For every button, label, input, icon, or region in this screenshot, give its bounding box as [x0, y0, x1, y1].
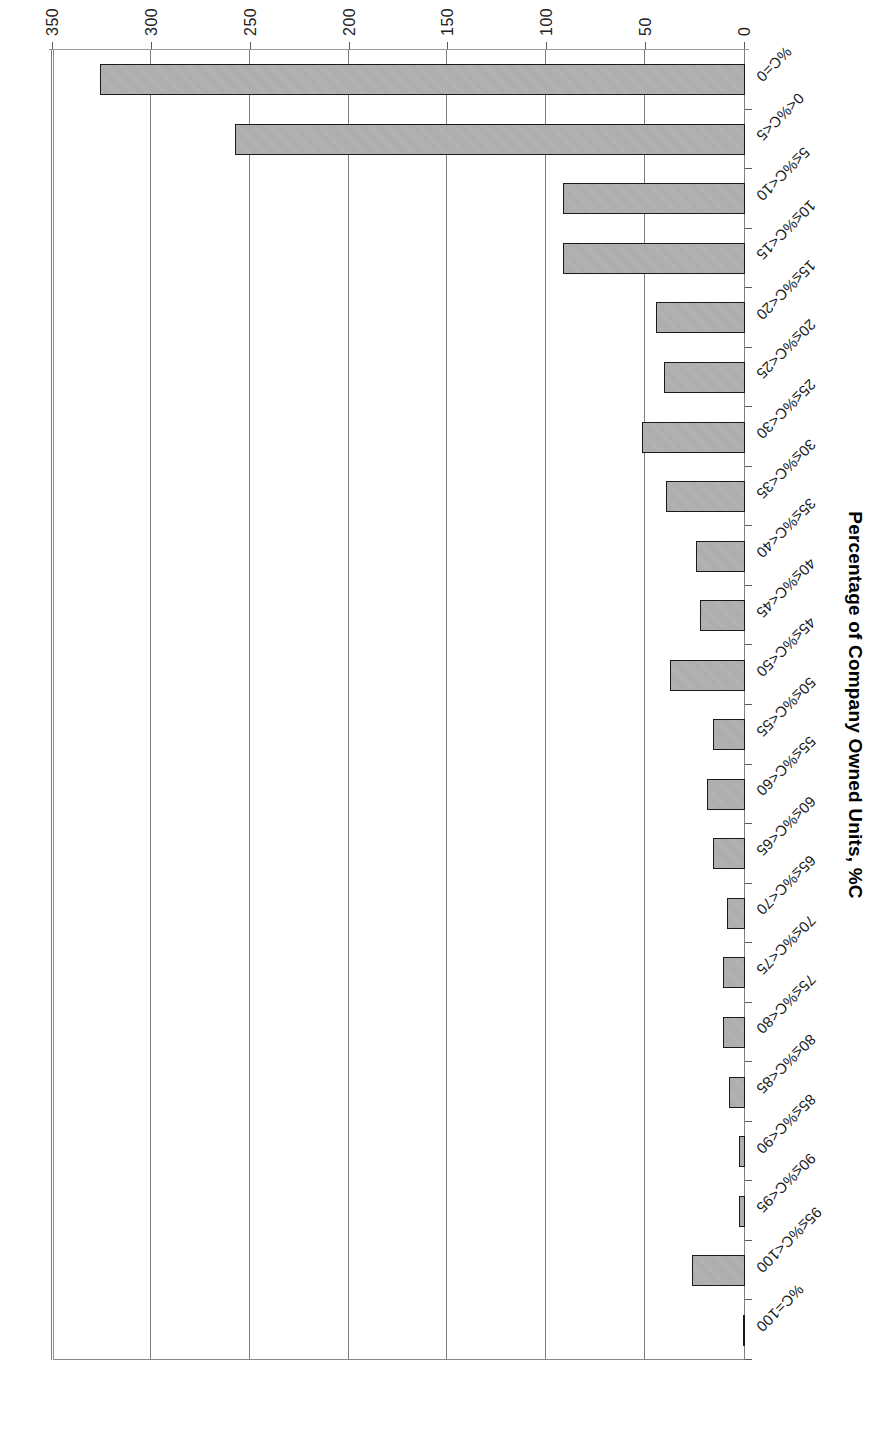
category-label: 70≤%C<75: [753, 912, 819, 978]
value-axis-tick-label: 350: [44, 8, 62, 36]
bar: [664, 362, 745, 393]
category-label: 35≤%C<40: [753, 495, 819, 561]
value-axis-tick-label: 0: [736, 27, 754, 36]
bar-fill: [656, 302, 745, 333]
bar: [100, 64, 745, 95]
bar-fill: [707, 779, 745, 810]
bar-fill: [743, 1315, 745, 1346]
bar: [666, 481, 745, 512]
bar: [700, 600, 745, 631]
bar: [563, 183, 745, 214]
bar: [642, 422, 745, 453]
bar: [727, 898, 745, 929]
value-axis-tick-label: 200: [341, 8, 359, 36]
category-axis-tick: [745, 1061, 752, 1062]
category-label: 40≤%C<45: [753, 555, 819, 621]
bar-fill: [664, 362, 745, 393]
value-axis-tick-label: 250: [242, 8, 260, 36]
category-axis-tick: [745, 228, 752, 229]
bar-fill: [739, 1136, 745, 1167]
bar-fill: [713, 838, 745, 869]
bar-fill: [713, 719, 745, 750]
gridline: [249, 50, 250, 1360]
bar-fill: [563, 243, 745, 274]
category-axis-tick: [745, 942, 752, 943]
category-axis-tick: [745, 1180, 752, 1181]
category-axis-tick: [745, 883, 752, 884]
gridline: [51, 50, 52, 1360]
bar: [563, 243, 745, 274]
gridline: [446, 50, 447, 1360]
value-axis-tick-label: 150: [439, 8, 457, 36]
category-axis-tick: [745, 823, 752, 824]
bar: [743, 1315, 745, 1346]
bar-fill: [670, 660, 745, 691]
category-label: 20≤%C<25: [753, 317, 819, 383]
gridline: [348, 50, 349, 1360]
category-label: 5≤%C<10: [753, 144, 813, 204]
category-label: 60≤%C<65: [753, 793, 819, 859]
value-axis-line: [49, 49, 749, 50]
bar: [656, 302, 745, 333]
category-axis-tick: [745, 1121, 752, 1122]
category-axis-tick: [745, 644, 752, 645]
category-label: 45≤%C<50: [753, 614, 819, 680]
category-axis-tick: [745, 704, 752, 705]
category-axis-tick: [745, 406, 752, 407]
category-label: 30≤%C<35: [753, 436, 819, 502]
value-axis-tick-label: 300: [143, 8, 161, 36]
category-label: 55≤%C<60: [753, 733, 819, 799]
category-label: 80≤%C<85: [753, 1031, 819, 1097]
bar-fill: [739, 1196, 745, 1227]
bar-fill: [666, 481, 745, 512]
category-axis-tick: [745, 347, 752, 348]
gridline: [150, 50, 151, 1360]
category-axis-tick: [745, 1359, 752, 1360]
bar: [729, 1077, 745, 1108]
category-axis-tick: [745, 466, 752, 467]
category-label: 10≤%C<15: [753, 198, 819, 264]
value-axis-tick-label: 50: [637, 17, 655, 36]
category-axis-tick: [745, 109, 752, 110]
category-label: 75≤%C<80: [753, 972, 819, 1038]
bar: [692, 1255, 745, 1286]
bar-fill: [563, 183, 745, 214]
bar: [696, 541, 745, 572]
category-label: 15≤%C<20: [753, 257, 819, 323]
gridline: [545, 50, 546, 1360]
bar: [707, 779, 745, 810]
category-axis-tick: [745, 764, 752, 765]
category-label: 0<%C<5: [753, 90, 808, 145]
category-axis-tick: [745, 1299, 752, 1300]
bar: [723, 1017, 745, 1048]
bar-fill: [100, 64, 745, 95]
category-label: 85≤%C<90: [753, 1091, 819, 1157]
category-axis-tick: [745, 585, 752, 586]
category-axis-tick: [745, 1002, 752, 1003]
bar-fill: [692, 1255, 745, 1286]
bar-fill: [642, 422, 745, 453]
category-axis-tick: [745, 287, 752, 288]
bar: [739, 1136, 745, 1167]
category-label: %C=0: [753, 43, 795, 85]
bar-fill: [727, 898, 745, 929]
bar: [235, 124, 745, 155]
bar-fill: [723, 1017, 745, 1048]
category-label: %C=100: [753, 1281, 807, 1335]
bar-fill: [723, 957, 745, 988]
value-axis-tick-label: 100: [538, 8, 556, 36]
bar: [739, 1196, 745, 1227]
bar: [670, 660, 745, 691]
bar-fill: [700, 600, 745, 631]
bar-fill: [696, 541, 745, 572]
x-axis-title: Percentage of Company Owned Units, %C: [844, 511, 866, 898]
bar: [713, 719, 745, 750]
category-label: 65≤%C<70: [753, 853, 819, 919]
bar-fill: [729, 1077, 745, 1108]
category-label: 25≤%C<30: [753, 376, 819, 442]
bar: [723, 957, 745, 988]
category-axis-tick: [745, 168, 752, 169]
chart-figure: 050100150200250300350 %C=00<%C<55≤%C<101…: [0, 0, 891, 1434]
category-axis-tick: [745, 1240, 752, 1241]
category-label: 50≤%C<55: [753, 674, 819, 740]
